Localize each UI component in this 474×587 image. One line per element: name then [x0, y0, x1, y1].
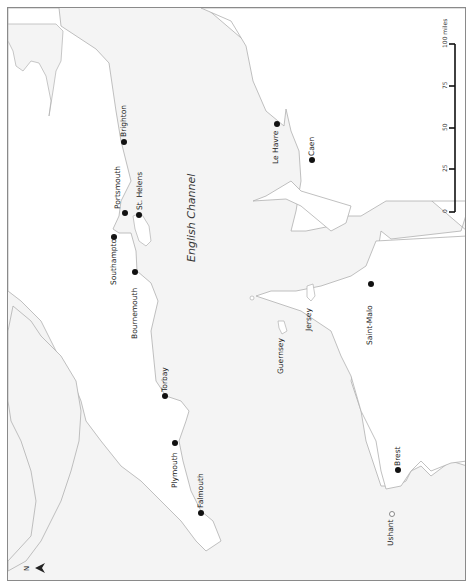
normandy-coast: [201, 8, 466, 231]
place-dot-ushant[interactable]: [389, 511, 395, 517]
brittany: [256, 236, 466, 489]
place-dot-portsmouth[interactable]: [122, 210, 128, 216]
place-label-falmouth: Falmouth: [197, 473, 205, 508]
place-label-torbay: Torbay: [161, 367, 169, 392]
place-dot-bournemouth[interactable]: [132, 269, 138, 275]
scale-tick-0: 0: [442, 209, 448, 213]
place-dot-brest[interactable]: [395, 467, 401, 473]
place-dot-le-havre[interactable]: [274, 121, 280, 127]
place-dot-caen[interactable]: [309, 157, 315, 163]
place-label-saint-malo: Saint-Malo: [366, 305, 374, 345]
place-label-brighton: Brighton: [120, 105, 128, 137]
north-label: N: [24, 566, 31, 571]
coastline-layer: [8, 8, 466, 581]
place-label-southampton: Southampton: [110, 234, 118, 285]
place-label-portsmouth: Portsmouth: [114, 166, 122, 209]
map: English Channel Brighton Portsmouth St. …: [0, 0, 474, 587]
place-dot-st-helens[interactable]: [136, 212, 142, 218]
north-arrow-icon: [35, 563, 45, 573]
place-dot-falmouth[interactable]: [198, 510, 204, 516]
scale-tick-50: 50: [442, 123, 448, 131]
map-frame: [7, 7, 466, 581]
place-dot-plymouth[interactable]: [172, 440, 178, 446]
place-dot-saint-malo[interactable]: [368, 281, 374, 287]
isle-of-wight: [133, 213, 151, 246]
place-label-caen: Caen: [308, 137, 316, 156]
island-label-guernsey: Guernsey: [277, 338, 285, 374]
guernsey-island: [278, 321, 287, 334]
place-label-brest: Brest: [394, 446, 402, 466]
sea-label: English Channel: [186, 174, 197, 262]
place-label-plymouth: Plymouth: [171, 453, 179, 488]
place-label-bournemouth: Bournemouth: [131, 288, 139, 339]
alderney-island: [250, 296, 254, 300]
scale-tick-25: 25: [442, 164, 448, 172]
scale-tick-100-miles: 100 miles: [442, 19, 448, 48]
island-label-jersey: Jersey: [305, 308, 313, 331]
place-label-le-havre: Le Havre: [272, 131, 280, 164]
place-label-st-helens: St. Helens: [136, 172, 144, 210]
place-dot-brighton[interactable]: [121, 139, 127, 145]
place-label-ushant: Ushant: [387, 520, 395, 546]
place-dot-torbay[interactable]: [162, 393, 168, 399]
scale-tick-75: 75: [442, 81, 448, 89]
